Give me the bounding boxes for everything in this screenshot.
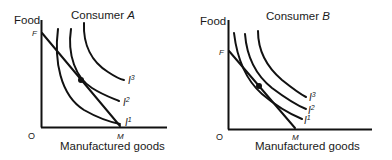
budget-y-intercept-label: F [32,29,38,38]
panel-consumer-b: Food Consumer B F M O Manufactured goods… [200,10,372,152]
indifference-curve-2 [245,34,306,109]
origin-label: O [28,131,35,141]
y-axis-label: Food [200,15,226,27]
indifference-curve-3-label: I3 [309,91,316,103]
indifference-curve-1 [57,29,120,124]
indifference-curve-2-label: I2 [123,96,130,108]
y-axis-label: Food [14,14,40,26]
indifference-curve-2 [70,29,119,101]
panel-title: Consumer B [266,10,330,22]
x-axis-label: Manufactured goods [60,140,165,152]
x-axis-label: Manufactured goods [255,140,360,152]
indifference-curve-3 [258,31,306,97]
diagram-canvas: Food Consumer A F M O Manufactured goods… [0,0,392,160]
indifference-curve-1 [234,33,302,119]
equilibrium-point [256,83,262,89]
budget-y-intercept-label: F [219,48,225,57]
indifference-curve-3 [84,23,124,80]
indifference-curve-1-label: I1 [125,116,132,128]
equilibrium-point [78,77,84,83]
panel-consumer-a: Food Consumer A F M O Manufactured goods… [14,9,167,152]
origin-label: O [216,132,223,142]
panel-title: Consumer A [71,9,135,21]
budget-line [229,51,295,128]
indifference-curve-3-label: I3 [128,74,135,86]
indifference-curve-2-label: I2 [308,104,315,116]
